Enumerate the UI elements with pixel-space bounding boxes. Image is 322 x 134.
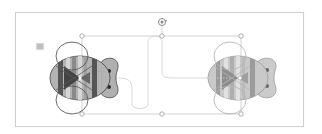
motion-path[interactable] (118, 36, 208, 109)
handle-top-left[interactable] (80, 34, 84, 38)
handle-bottom-left[interactable] (80, 112, 84, 116)
handle-bottom-right[interactable] (239, 112, 243, 116)
bee-right[interactable] (208, 42, 276, 114)
handle-top-center[interactable] (160, 34, 164, 38)
rotate-icon[interactable] (159, 19, 168, 26)
slide-stage (0, 0, 322, 134)
handle-bottom-center[interactable] (160, 112, 164, 116)
bee-left[interactable] (50, 42, 118, 114)
handle-top-right[interactable] (239, 34, 243, 38)
